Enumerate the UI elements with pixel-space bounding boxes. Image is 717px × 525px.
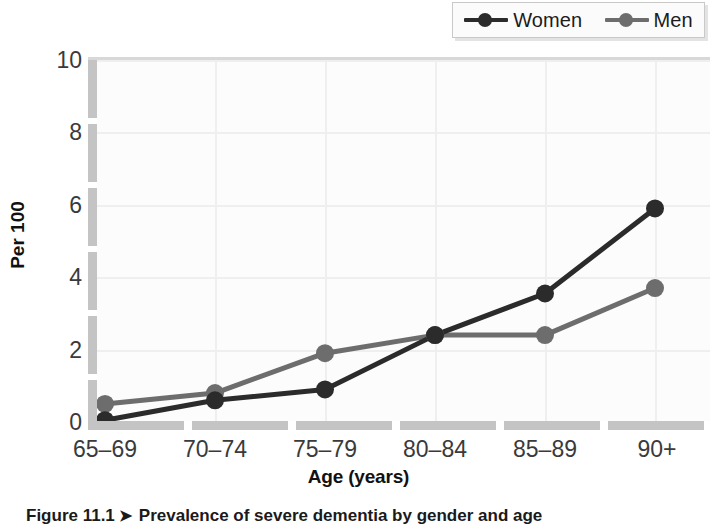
data-point [536,326,554,344]
data-point [206,391,224,409]
y-axis-title: Per 100 [7,180,29,290]
caption-text: Prevalence of severe dementia by gender … [139,506,542,525]
series-layer [96,60,710,422]
y-tick-2: 2 [18,337,82,364]
y-tick-10: 10 [18,47,82,74]
data-point [96,395,114,413]
series-line-men [105,288,655,404]
data-point [646,279,664,297]
data-point [646,199,664,217]
line-chart: 0 2 4 6 8 10 65–69 70–74 75–79 80–84 85–… [0,0,717,470]
data-point [536,284,554,302]
data-point [316,344,334,362]
data-point [426,326,444,344]
series-line-women [105,208,655,420]
plot-area [96,60,710,422]
y-tick-8: 8 [18,119,82,146]
data-point [316,380,334,398]
y-axis-spine [88,60,97,424]
figure-caption: Figure 11.1➤Prevalence of severe dementi… [26,505,706,525]
figure-number: Figure 11.1 [26,506,115,525]
x-axis-title: Age (years) [0,466,717,488]
x-axis-spine [88,421,710,430]
caption-arrow-icon: ➤ [119,507,132,524]
y-tick-0: 0 [18,409,82,436]
x-tick-90plus: 90+ [587,436,717,463]
